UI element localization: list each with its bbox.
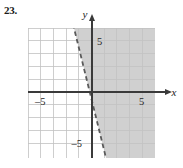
coordinate-plane-graph: x y 5 –5 –5 5 xyxy=(0,0,183,168)
tick-label-y-negative-5: –5 xyxy=(71,138,83,149)
tick-label-x-positive-5: 5 xyxy=(139,96,144,107)
tick-label-y-positive-5: 5 xyxy=(97,36,102,47)
y-axis-label: y xyxy=(82,8,88,20)
graph-figure: 23. xyxy=(0,0,183,168)
tick-label-x-negative-5: –5 xyxy=(34,96,46,107)
x-axis-label: x xyxy=(171,86,177,98)
